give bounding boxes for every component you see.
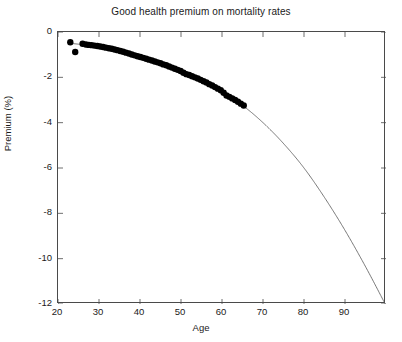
- y-tick-label: -10: [12, 252, 52, 263]
- x-tick-label: 30: [78, 306, 118, 317]
- x-axis-label: Age: [0, 322, 402, 333]
- y-tick-label: -6: [12, 161, 52, 172]
- x-tick-label: 40: [119, 306, 159, 317]
- y-tick-label: 0: [12, 25, 52, 36]
- plot-canvas: [58, 32, 386, 304]
- scatter-point: [72, 49, 78, 55]
- tick-marks: [58, 32, 386, 304]
- scatter-point: [241, 102, 247, 108]
- fitted-curve: [70, 43, 385, 304]
- plot-area: [57, 31, 385, 303]
- x-tick-label: 60: [201, 306, 241, 317]
- x-tick-label: 20: [37, 306, 77, 317]
- x-tick-label: 90: [324, 306, 364, 317]
- x-tick-label: 70: [242, 306, 282, 317]
- x-tick-label: 80: [283, 306, 323, 317]
- x-tick-label: 50: [160, 306, 200, 317]
- scatter-point: [67, 39, 73, 45]
- y-tick-label: -8: [12, 206, 52, 217]
- y-tick-label: -2: [12, 70, 52, 81]
- scatter-points: [67, 39, 247, 109]
- chart-title: Good health premium on mortality rates: [0, 6, 402, 17]
- y-tick-label: -4: [12, 116, 52, 127]
- chart-figure: Good health premium on mortality rates 0…: [0, 0, 402, 342]
- y-axis-label: Premium (%): [2, 69, 13, 179]
